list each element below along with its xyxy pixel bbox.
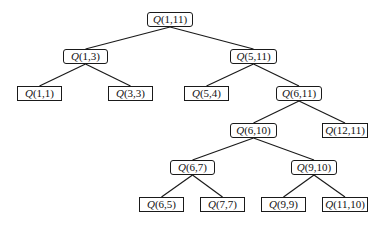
tree-node-internal: Q(5,11) [230, 49, 277, 64]
tree-edges [0, 0, 382, 227]
node-symbol: Q [325, 124, 333, 136]
node-args: (6,7) [186, 161, 207, 173]
tree-edge [254, 64, 300, 86]
tree-node-leaf: Q(3,3) [108, 86, 153, 101]
tree-node-leaf: Q(12,11) [322, 123, 368, 138]
tree-edge [193, 175, 223, 197]
node-args: (1,1) [33, 87, 54, 99]
node-args: (3,3) [124, 87, 145, 99]
node-symbol: Q [153, 13, 161, 25]
tree-edge [254, 138, 315, 160]
node-args: (6,5) [155, 198, 176, 210]
tree-node-leaf: Q(9,9) [261, 197, 306, 212]
tree-node-internal: Q(6,11) [276, 86, 322, 101]
node-args: (6,11) [290, 87, 316, 99]
node-symbol: Q [178, 161, 186, 173]
node-args: (6,10) [244, 124, 271, 136]
node-symbol: Q [282, 87, 290, 99]
tree-edge [284, 175, 315, 197]
tree-node-internal: Q(1,3) [63, 49, 108, 64]
node-symbol: Q [208, 198, 216, 210]
tree-edge [162, 175, 193, 197]
node-symbol: Q [192, 87, 200, 99]
node-symbol: Q [297, 161, 305, 173]
node-args: (9,10) [305, 161, 332, 173]
node-symbol: Q [325, 198, 333, 210]
tree-node-leaf: Q(1,1) [17, 86, 62, 101]
node-args: (7,7) [216, 198, 237, 210]
tree-edge [170, 27, 254, 49]
tree-node-internal: Q(6,10) [230, 123, 277, 138]
tree-node-leaf: Q(11,10) [322, 197, 368, 212]
node-args: (12,11) [333, 124, 365, 136]
node-symbol: Q [269, 198, 277, 210]
tree-edge [254, 101, 300, 123]
tree-edge [299, 101, 345, 123]
node-args: (5,11) [244, 50, 270, 62]
tree-node-leaf: Q(7,7) [200, 197, 245, 212]
tree-edge [207, 64, 254, 86]
tree-node-internal: Q(9,10) [291, 160, 337, 175]
node-symbol: Q [116, 87, 124, 99]
node-args: (1,3) [79, 50, 100, 62]
tree-edge [193, 138, 254, 160]
node-args: (9,9) [277, 198, 298, 210]
tree-edge [86, 64, 131, 86]
tree-node-leaf: Q(5,4) [184, 86, 229, 101]
tree-edge [40, 64, 86, 86]
node-args: (1,11) [161, 13, 187, 25]
node-args: (5,4) [200, 87, 221, 99]
tree-node-leaf: Q(6,5) [139, 197, 184, 212]
tree-node-internal: Q(1,11) [147, 12, 193, 27]
tree-edge [86, 27, 171, 49]
tree-node-internal: Q(6,7) [170, 160, 215, 175]
node-symbol: Q [236, 124, 244, 136]
node-symbol: Q [25, 87, 33, 99]
tree-edge [314, 175, 345, 197]
node-args: (11,10) [333, 198, 365, 210]
node-symbol: Q [71, 50, 79, 62]
node-symbol: Q [147, 198, 155, 210]
